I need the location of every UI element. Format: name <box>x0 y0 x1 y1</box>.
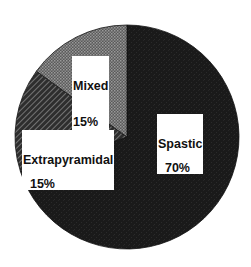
slice-label-mixed: Mixed 15% <box>72 56 109 140</box>
mixed-name: Mixed <box>73 80 108 92</box>
extrapyramidal-pct: 15% <box>30 178 55 190</box>
extrapyramidal-name: Extrapyramidal <box>23 154 113 166</box>
mixed-pct: 15% <box>73 116 108 128</box>
spastic-name: Spastic <box>158 138 202 150</box>
spastic-pct: 70% <box>165 162 190 174</box>
slice-label-spastic: Spastic 70% <box>157 114 203 174</box>
slice-label-extrapyramidal: Extrapyramidal 15% <box>22 130 114 190</box>
